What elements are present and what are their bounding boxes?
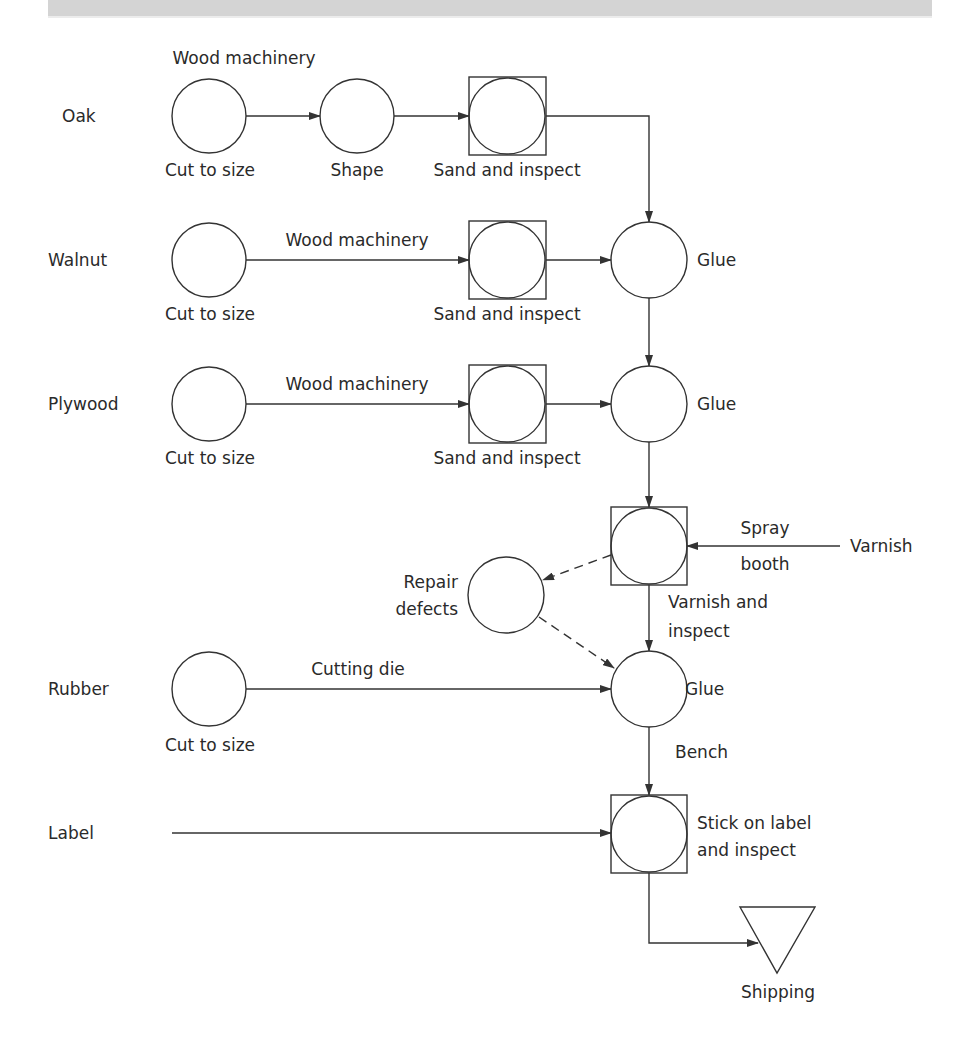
step-label-walnut-cut: Cut to size xyxy=(165,304,255,324)
input-label-plywood: Plywood xyxy=(48,394,119,414)
operation-circle-oak-cut xyxy=(172,79,246,153)
operation-circle-stick-label xyxy=(611,796,687,872)
process-flow-diagram: Oak Wood machinery Cut to size Shape San… xyxy=(0,0,974,1048)
step-label-plywood-cut: Cut to size xyxy=(165,448,255,468)
operation-circle-walnut-cut xyxy=(172,223,246,297)
input-label-walnut: Walnut xyxy=(48,250,107,270)
dashed-arrow-repair-to-glue3 xyxy=(539,617,614,668)
operation-circle-oak-shape xyxy=(320,79,394,153)
input-label-varnish: Varnish xyxy=(850,536,913,556)
machine-label-walnut: Wood machinery xyxy=(286,230,429,250)
stick-label-line2: and inspect xyxy=(697,840,796,860)
step-label-oak-cut: Cut to size xyxy=(165,160,255,180)
operation-circle-rubber-cut xyxy=(172,652,246,726)
step-label-plywood-sand: Sand and inspect xyxy=(433,448,581,468)
varnish-op-label-line1: Varnish and xyxy=(668,592,768,612)
repair-label-line1: Repair xyxy=(404,572,458,592)
storage-triangle-shipping xyxy=(740,907,815,973)
step-label-glue-1: Glue xyxy=(697,250,736,270)
operation-circle-glue-3 xyxy=(611,651,687,727)
input-label-rubber: Rubber xyxy=(48,679,109,699)
dashed-arrow-varnish-to-repair xyxy=(543,555,611,580)
machine-label-rubber: Cutting die xyxy=(311,659,405,679)
stick-label-line1: Stick on label xyxy=(697,813,811,833)
machine-label-plywood: Wood machinery xyxy=(286,374,429,394)
step-label-oak-shape: Shape xyxy=(330,160,383,180)
operation-circle-varnish xyxy=(611,508,687,584)
machine-label-oak: Wood machinery xyxy=(173,48,316,68)
arrow-to-shipping xyxy=(649,873,758,943)
bench-label: Bench xyxy=(675,742,728,762)
operation-circle-repair xyxy=(468,557,544,633)
varnish-op-label-line2: inspect xyxy=(668,621,730,641)
input-label-label: Label xyxy=(48,823,94,843)
operation-circle-glue-2 xyxy=(611,366,687,442)
step-label-walnut-sand: Sand and inspect xyxy=(433,304,581,324)
operation-circle-plywood-cut xyxy=(172,367,246,441)
step-label-glue-3: Glue xyxy=(685,679,724,699)
repair-label-line2: defects xyxy=(395,599,458,619)
input-label-oak: Oak xyxy=(62,106,96,126)
step-label-oak-sand: Sand and inspect xyxy=(433,160,581,180)
operation-circle-glue-1 xyxy=(611,222,687,298)
step-label-glue-2: Glue xyxy=(697,394,736,414)
operation-circle-oak-sand xyxy=(469,78,545,154)
operation-circle-plywood-sand xyxy=(469,366,545,442)
operation-circle-walnut-sand xyxy=(469,222,545,298)
spray-booth-label-line1: Spray xyxy=(740,518,789,538)
spray-booth-label-line2: booth xyxy=(740,554,789,574)
shipping-label: Shipping xyxy=(741,982,815,1002)
step-label-rubber-cut: Cut to size xyxy=(165,735,255,755)
